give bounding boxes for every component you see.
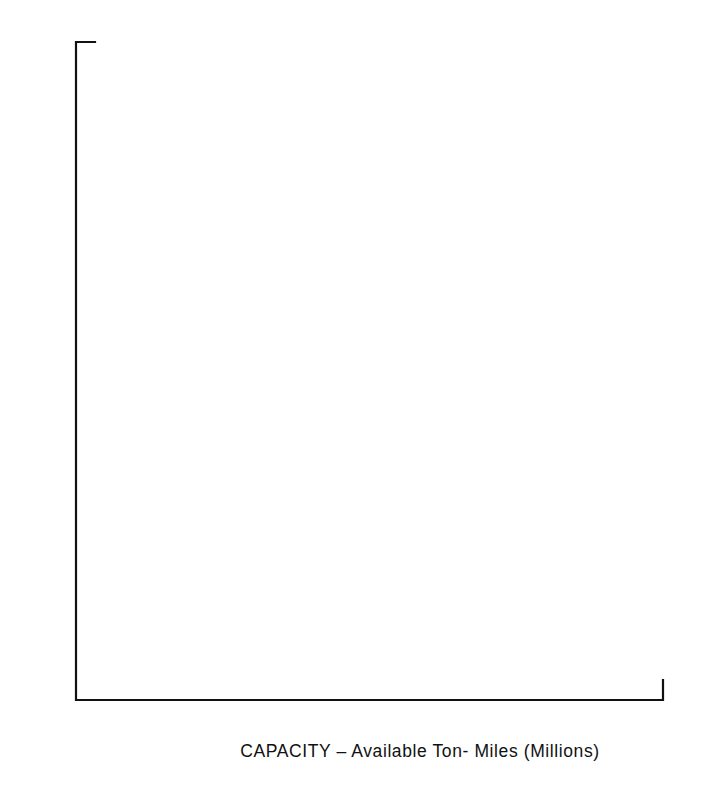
axes [76,42,663,700]
axis-spine [76,42,663,700]
scatter-plot-figure: CAPACITY – Available Ton- Miles (Million… [0,0,710,794]
x-axis-label: CAPACITY – Available Ton- Miles (Million… [240,741,599,761]
plot-canvas: CAPACITY – Available Ton- Miles (Million… [0,0,710,794]
